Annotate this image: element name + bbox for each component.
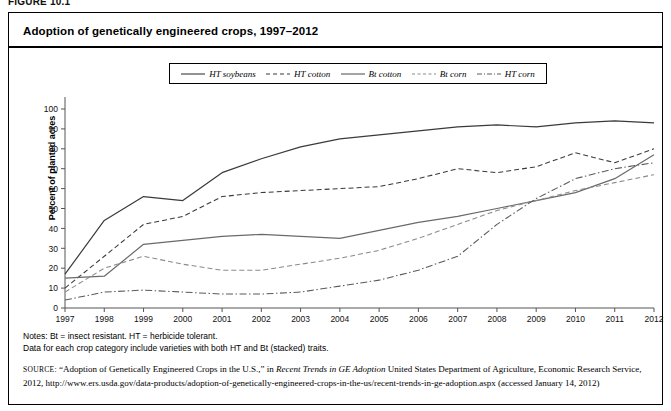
svg-text:2004: 2004 — [330, 314, 349, 324]
svg-text:2010: 2010 — [566, 314, 585, 324]
series-line — [65, 149, 654, 288]
svg-text:2000: 2000 — [173, 314, 192, 324]
svg-text:90: 90 — [49, 124, 59, 134]
svg-text:40: 40 — [49, 224, 59, 234]
svg-text:2002: 2002 — [252, 314, 271, 324]
svg-text:100: 100 — [44, 104, 58, 114]
source-italic-title: Recent Trends in GE Adoption — [276, 364, 386, 374]
svg-text:0: 0 — [53, 303, 58, 313]
series-line — [65, 121, 654, 274]
svg-text:2006: 2006 — [409, 314, 428, 324]
series-line — [65, 163, 654, 300]
svg-text:2005: 2005 — [370, 314, 389, 324]
svg-text:80: 80 — [49, 144, 59, 154]
svg-text:20: 20 — [49, 263, 59, 273]
series-line — [65, 175, 654, 292]
svg-text:2001: 2001 — [213, 314, 232, 324]
svg-text:1997: 1997 — [56, 314, 75, 324]
source-text-a: “Adoption of Genetically Engineered Crop… — [57, 364, 276, 374]
svg-text:1998: 1998 — [95, 314, 114, 324]
figure-label: FIGURE 10.1 — [8, 0, 70, 7]
svg-text:2009: 2009 — [527, 314, 546, 324]
svg-text:2007: 2007 — [448, 314, 467, 324]
svg-text:1999: 1999 — [134, 314, 153, 324]
svg-text:2003: 2003 — [291, 314, 310, 324]
chart-source: SOURCE: “Adoption of Genetically Enginee… — [23, 363, 648, 389]
svg-text:2008: 2008 — [487, 314, 506, 324]
notes-line-1: Notes: Bt = insect resistant. HT = herbi… — [23, 331, 329, 343]
svg-text:30: 30 — [49, 244, 59, 254]
svg-text:2012: 2012 — [645, 314, 664, 324]
figure-container: Adoption of genetically engineered crops… — [8, 12, 663, 405]
series-line — [65, 155, 654, 278]
svg-text:50: 50 — [49, 204, 59, 214]
notes-line-2: Data for each crop category include vari… — [23, 343, 329, 355]
svg-text:10: 10 — [49, 283, 59, 293]
source-prefix: SOURCE: — [23, 365, 57, 374]
svg-text:2011: 2011 — [606, 314, 625, 324]
svg-text:60: 60 — [49, 184, 59, 194]
svg-text:70: 70 — [49, 164, 59, 174]
chart-notes: Notes: Bt = insect resistant. HT = herbi… — [23, 331, 329, 354]
